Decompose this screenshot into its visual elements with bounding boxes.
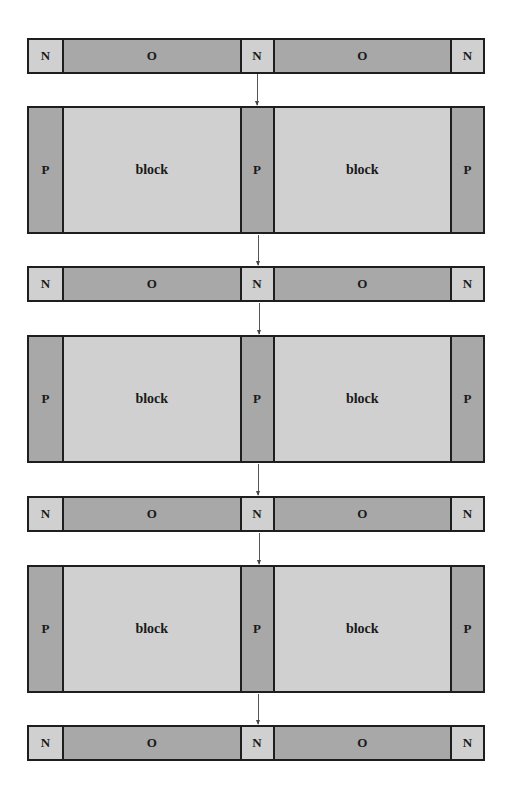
- p-cell: P: [240, 567, 273, 691]
- block-cell: block: [273, 108, 451, 232]
- block-cell: block: [273, 567, 451, 691]
- n-cell: N: [29, 268, 62, 300]
- down-arrow-icon: [258, 694, 259, 724]
- strip-1: N O N O N: [27, 38, 485, 74]
- block-cell: block: [62, 108, 240, 232]
- p-cell: P: [450, 108, 483, 232]
- strip-2: N O N O N: [27, 266, 485, 302]
- o-cell: O: [273, 268, 451, 300]
- n-cell: N: [450, 727, 483, 759]
- n-cell: N: [240, 268, 273, 300]
- p-cell: P: [29, 567, 62, 691]
- p-cell: P: [450, 567, 483, 691]
- down-arrow-icon: [258, 235, 259, 265]
- n-cell: N: [29, 40, 62, 72]
- o-cell: O: [273, 40, 451, 72]
- block-row-3: P block P block P: [27, 565, 485, 693]
- p-cell: P: [450, 337, 483, 461]
- n-cell: N: [240, 40, 273, 72]
- o-cell: O: [62, 498, 240, 530]
- down-arrow-icon: [259, 533, 260, 564]
- n-cell: N: [450, 40, 483, 72]
- block-cell: block: [62, 567, 240, 691]
- p-cell: P: [240, 108, 273, 232]
- o-cell: O: [273, 727, 451, 759]
- down-arrow-icon: [259, 303, 260, 334]
- strip-3: N O N O N: [27, 496, 485, 532]
- block-cell: block: [273, 337, 451, 461]
- n-cell: N: [29, 727, 62, 759]
- down-arrow-icon: [257, 74, 258, 105]
- block-cell: block: [62, 337, 240, 461]
- p-cell: P: [29, 337, 62, 461]
- n-cell: N: [450, 498, 483, 530]
- p-cell: P: [240, 337, 273, 461]
- n-cell: N: [450, 268, 483, 300]
- n-cell: N: [29, 498, 62, 530]
- o-cell: O: [62, 268, 240, 300]
- o-cell: O: [62, 40, 240, 72]
- n-cell: N: [240, 727, 273, 759]
- p-cell: P: [29, 108, 62, 232]
- o-cell: O: [273, 498, 451, 530]
- block-row-2: P block P block P: [27, 335, 485, 463]
- n-cell: N: [240, 498, 273, 530]
- strip-4: N O N O N: [27, 725, 485, 761]
- down-arrow-icon: [258, 464, 259, 495]
- block-row-1: P block P block P: [27, 106, 485, 234]
- o-cell: O: [62, 727, 240, 759]
